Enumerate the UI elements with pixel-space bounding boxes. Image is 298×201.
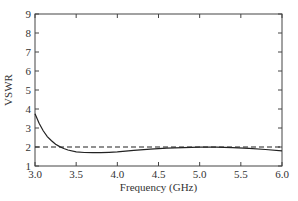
y-tick-label: 2 bbox=[26, 141, 32, 153]
x-tick-label: 3.5 bbox=[69, 168, 83, 180]
x-tick-label: 4.0 bbox=[110, 168, 124, 180]
plot-frame bbox=[35, 14, 282, 166]
x-axis-label: Frequency (GHz) bbox=[120, 181, 198, 194]
x-tick-label: 6.0 bbox=[275, 168, 289, 180]
x-tick-label: 5.0 bbox=[193, 168, 207, 180]
axis-ticks: 3.03.54.04.55.05.56.0123456789 bbox=[26, 8, 290, 180]
y-tick-label: 3 bbox=[26, 122, 32, 134]
x-tick-label: 5.5 bbox=[234, 168, 248, 180]
y-tick-label: 4 bbox=[26, 103, 32, 115]
x-tick-label: 4.5 bbox=[152, 168, 166, 180]
y-tick-label: 7 bbox=[26, 46, 32, 58]
y-tick-label: 8 bbox=[26, 27, 32, 39]
plot-axes bbox=[35, 14, 282, 166]
y-axis-label: VSWR bbox=[2, 73, 14, 105]
y-tick-label: 1 bbox=[26, 160, 32, 172]
data-series bbox=[35, 114, 282, 153]
y-tick-label: 5 bbox=[26, 84, 32, 96]
vswr-chart: 3.03.54.04.55.05.56.0123456789 Frequency… bbox=[0, 0, 298, 201]
y-tick-label: 6 bbox=[26, 65, 32, 77]
y-tick-label: 9 bbox=[26, 8, 32, 20]
